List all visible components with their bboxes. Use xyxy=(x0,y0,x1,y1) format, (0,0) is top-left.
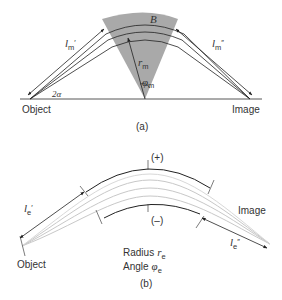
exit-boundary-lower xyxy=(196,216,204,228)
object-label-b: Object xyxy=(17,259,46,270)
entrance-boundary-lower xyxy=(96,210,102,224)
angle-label-b: Angleφe xyxy=(123,260,162,275)
caption-a: (a) xyxy=(136,121,148,132)
panel-b: (+) (–) le′ le″ Image Object Radiusre An… xyxy=(17,152,270,289)
positive-label: (+) xyxy=(151,152,164,163)
caption-b: (b) xyxy=(140,278,152,289)
image-label-b: Image xyxy=(238,205,266,216)
negative-label: (–) xyxy=(151,215,163,226)
radius-label-b: Radiusre xyxy=(123,246,166,261)
sector-label: B xyxy=(150,13,157,25)
path-length-in-label: lm′ xyxy=(65,37,76,52)
path-length-in-label-b: le′ xyxy=(24,202,33,217)
image-label-a: Image xyxy=(232,104,260,115)
path-length-out-label: lm″ xyxy=(212,37,224,52)
path-length-out-label-b: le″ xyxy=(230,236,240,251)
object-label-a: Object xyxy=(22,104,51,115)
object-tick xyxy=(20,236,25,256)
panel-a: B rm φm 2α lm′ lm″ Object Image (a) xyxy=(20,13,262,133)
half-angle-label: 2α xyxy=(52,89,62,99)
ion-optics-diagram: B rm φm 2α lm′ lm″ Object Image (a) xyxy=(0,0,282,300)
